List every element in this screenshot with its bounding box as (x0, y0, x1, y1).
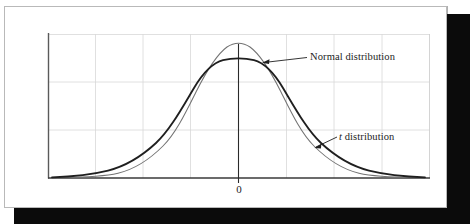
figure-root: Normal distribution t distribution 0 (0, 0, 470, 224)
normal-distribution-label: Normal distribution (310, 52, 395, 63)
x-axis-zero-tick-label: 0 (232, 184, 246, 195)
t-distribution-label: t distribution (339, 132, 394, 143)
t-distribution-label-rest: distribution (342, 131, 394, 142)
normal-label-leader (262, 58, 307, 64)
